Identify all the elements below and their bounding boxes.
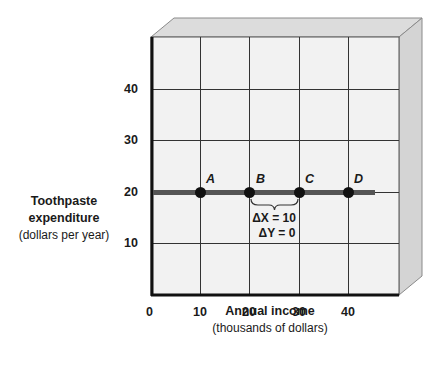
y-tick-20: 20 bbox=[124, 185, 138, 199]
x-tick-0: 0 bbox=[146, 305, 153, 319]
y-axis-title: Toothpaste expenditure (dollars per year… bbox=[0, 193, 128, 244]
x-title-sub: (thousands of dollars) bbox=[170, 320, 370, 337]
point-label-b: B bbox=[256, 172, 265, 186]
x-axis-title: Annual income (thousands of dollars) bbox=[170, 303, 370, 337]
delta-y-annotation: ΔY = 0 bbox=[242, 226, 312, 241]
y-tick-10: 10 bbox=[124, 236, 138, 250]
point-label-c: C bbox=[305, 172, 314, 186]
x-title: Annual income bbox=[170, 303, 370, 320]
y-title-line2: expenditure bbox=[0, 210, 128, 227]
y-title-sub: (dollars per year) bbox=[0, 227, 128, 244]
point-d bbox=[343, 187, 354, 198]
plot-area bbox=[151, 37, 399, 295]
box-right-face bbox=[399, 18, 422, 295]
point-label-d: D bbox=[354, 172, 363, 186]
y-tick-30: 30 bbox=[124, 133, 138, 147]
delta-x-annotation: ΔX = 10 bbox=[239, 211, 309, 226]
point-label-a: A bbox=[206, 172, 215, 186]
box-top-face bbox=[151, 18, 422, 37]
point-b bbox=[244, 187, 255, 198]
y-title-line1: Toothpaste bbox=[0, 193, 128, 210]
y-tick-40: 40 bbox=[124, 82, 138, 96]
point-c bbox=[294, 187, 305, 198]
point-a bbox=[195, 187, 206, 198]
